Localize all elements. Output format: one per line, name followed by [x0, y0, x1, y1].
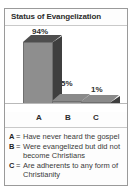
legend-separator-c: =	[16, 161, 20, 170]
chart-figure: Status of Evangelization 94% 5% 1% A B C	[4, 8, 128, 186]
legend-key-c: C	[9, 161, 14, 170]
plot-area: 94% 5% 1%	[5, 26, 127, 112]
x-tick-label-b: B	[65, 113, 71, 122]
legend-text-c: Are adherents to any form of Christianit…	[23, 161, 118, 179]
legend-item-a: A = Have never heard the gospel	[9, 132, 123, 141]
legend-separator-a: =	[16, 132, 20, 141]
legend-item-b: B = Were evangelized but did not become …	[9, 142, 123, 160]
bar-a-front-face	[23, 42, 53, 104]
legend-text-b: Were evangelized but did not become Chri…	[23, 142, 120, 160]
bar-a	[23, 42, 53, 104]
legend-key-b: B	[9, 142, 14, 151]
legend-separator-b: =	[16, 142, 20, 151]
x-tick-label-c: C	[93, 113, 99, 122]
chart-title-bar: Status of Evangelization	[5, 9, 127, 26]
chart-legend: A = Have never heard the gospel B = Were…	[5, 127, 127, 180]
x-axis-tick-labels: A B C	[5, 113, 127, 125]
page-title: Status of Evangelization	[11, 12, 101, 21]
legend-text-a: Have never heard the gospel	[23, 132, 119, 141]
x-tick-label-a: A	[36, 113, 42, 122]
bar-value-label-c: 1%	[91, 85, 103, 94]
bar-value-label-a: 94%	[32, 27, 48, 36]
legend-item-c: C = Are adherents to any form of Christi…	[9, 161, 123, 179]
x-axis-line	[5, 103, 127, 104]
legend-key-a: A	[9, 132, 14, 141]
bar-value-label-b: 5%	[61, 79, 73, 88]
